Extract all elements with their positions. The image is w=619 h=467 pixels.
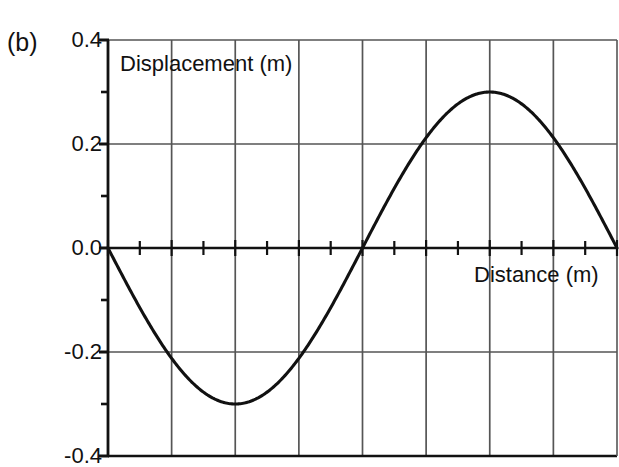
panel-label: (b) — [7, 28, 38, 56]
y-tick-label: -0.4 — [40, 445, 102, 467]
y-axis-title: Displacement (m) — [120, 52, 292, 76]
y-tick-label: -0.2 — [40, 341, 102, 363]
y-tick-label: 0.2 — [40, 133, 102, 155]
y-tick-label: 0.0 — [40, 237, 102, 259]
x-axis-title: Distance (m) — [474, 263, 599, 287]
y-tick-label: 0.4 — [40, 29, 102, 51]
y-axis-tick-labels: 0.4 0.2 0.0 -0.2 -0.4 — [40, 0, 102, 462]
